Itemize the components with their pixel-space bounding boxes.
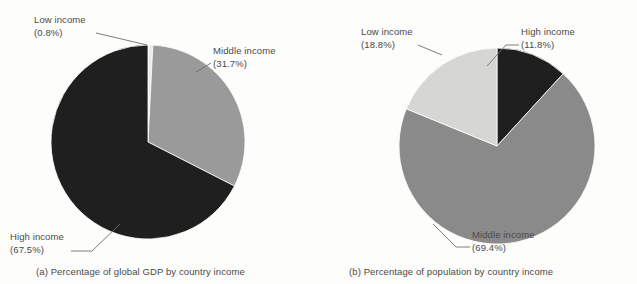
figure-container: Low income (0.8%) Middle income (31.7%) … xyxy=(0,0,637,284)
leader-line-b-middle xyxy=(320,0,637,284)
chart-panel-a: Low income (0.8%) Middle income (31.7%) … xyxy=(0,0,320,284)
leader-line-a-high xyxy=(0,0,320,284)
caption-b: (b) Percentage of population by country … xyxy=(349,266,553,278)
caption-a: (a) Percentage of global GDP by country … xyxy=(36,266,245,278)
chart-panel-b: Low income (18.8%) High income (11.8%) M… xyxy=(320,0,637,284)
